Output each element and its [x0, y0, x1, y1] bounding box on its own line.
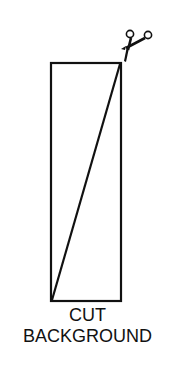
caption-cut: CUT — [0, 305, 175, 325]
caption-background: BACKGROUND — [0, 326, 175, 346]
scissors-icon — [121, 30, 152, 62]
diagonal-cut-line — [52, 64, 120, 300]
